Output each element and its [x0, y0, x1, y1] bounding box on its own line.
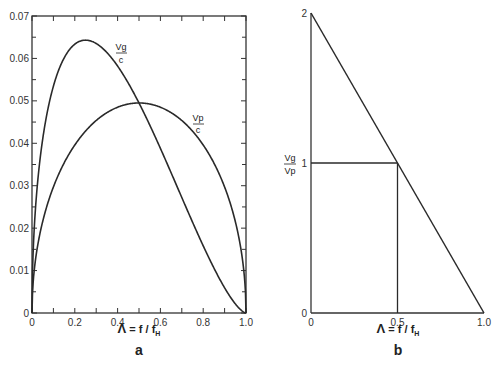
- panel-b-chart: 00.51.0012 Vg Vp Λ = f / fH b: [284, 8, 491, 359]
- ylabel-vp: Vp: [284, 166, 295, 176]
- y-tick-label: 1: [301, 158, 307, 169]
- x-tick-label: 0.2: [68, 317, 82, 328]
- label-vp-bottom: c: [196, 125, 201, 135]
- panel-b-ylabel: Vg Vp: [284, 153, 296, 176]
- x-tick-label: 0.8: [196, 317, 210, 328]
- label-vp-over-c: Vp c: [192, 113, 204, 135]
- x-tick-label: 1.0: [239, 317, 253, 328]
- curve-vg-over-c: [32, 40, 246, 313]
- panel-a-chart: 00.20.40.60.81.000.010.020.030.040.050.0…: [10, 11, 254, 359]
- label-vp-top: Vp: [192, 113, 203, 123]
- x-tick-label: 0: [308, 317, 314, 328]
- panel-a-label: a: [135, 342, 143, 358]
- y-tick-label: 0.07: [10, 11, 30, 22]
- y-tick-label: 0.05: [10, 95, 30, 106]
- ylabel-vg: Vg: [284, 153, 295, 163]
- label-vg-bottom: c: [119, 55, 124, 65]
- y-tick-label: 0: [23, 308, 29, 319]
- y-tick-label: 2: [301, 8, 307, 19]
- y-tick-label: 0.06: [10, 53, 30, 64]
- x-tick-label: 0: [29, 317, 35, 328]
- panel-b-xlabel: Λ = f / fH: [377, 321, 420, 337]
- y-tick-label: 0: [301, 308, 307, 319]
- panel-b-tick-labels: 00.51.0012: [301, 8, 491, 329]
- y-tick-label: 0.02: [10, 223, 30, 234]
- y-tick-label: 0.04: [10, 138, 30, 149]
- x-tick-label: 0.6: [153, 317, 167, 328]
- label-vg-over-c: Vg c: [115, 42, 127, 65]
- y-tick-label: 0.01: [10, 265, 30, 276]
- curve-vp-over-c: [32, 103, 246, 313]
- x-tick-label: 1.0: [477, 317, 491, 328]
- figure: 00.20.40.60.81.000.010.020.030.040.050.0…: [0, 0, 497, 367]
- label-vg-top: Vg: [115, 42, 126, 52]
- y-tick-label: 0.03: [10, 180, 30, 191]
- panel-b-label: b: [394, 342, 403, 358]
- panel-a-xlabel: Λ = f / fH: [118, 321, 161, 337]
